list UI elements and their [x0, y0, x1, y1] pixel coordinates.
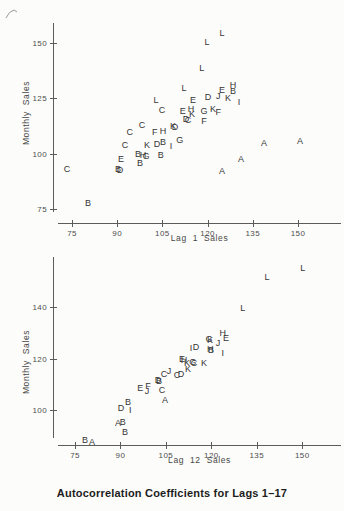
y-axis-label: Monthly Sales [21, 81, 31, 145]
x-tick-label: 75 [59, 229, 85, 238]
lag12-scatter-plot: Monthly Sales Lag 12 Sales 7590105120135… [0, 250, 344, 478]
y-axis-tick [50, 98, 57, 99]
data-point: L [199, 64, 204, 73]
x-axis-tick [208, 220, 209, 227]
data-point: B [120, 418, 126, 427]
x-tick-label: 135 [244, 451, 270, 460]
data-point: F [215, 108, 221, 117]
data-point: D [172, 123, 179, 132]
data-point: F [201, 116, 207, 125]
x-tick-label: 90 [107, 451, 133, 460]
lag1-scatter-plot: Monthly Sales Lag 1 Sales 75901051201351… [0, 0, 344, 250]
data-point: A [162, 395, 168, 404]
x-axis-tick [211, 442, 212, 449]
data-point: H [160, 127, 167, 136]
data-point: C [185, 116, 192, 125]
x-axis-tick [257, 442, 258, 449]
y-tick-label: 140 [21, 303, 47, 312]
data-point: J [216, 92, 221, 101]
data-point: B [158, 150, 164, 159]
y-tick-label: 75 [21, 205, 47, 214]
data-point: A [297, 137, 303, 146]
data-point: J [145, 386, 150, 395]
data-point: D [193, 342, 200, 351]
data-point: B [137, 158, 143, 167]
data-point: I [238, 98, 241, 107]
data-point: K [225, 94, 231, 103]
x-axis-tick [117, 220, 118, 227]
data-point: G [200, 106, 207, 115]
y-axis-line [53, 23, 54, 212]
figure-caption: Autocorrelation Coefficients for Lags 1–… [0, 487, 344, 499]
data-point: L [182, 83, 187, 92]
data-point: C [127, 127, 134, 136]
data-point: A [219, 167, 225, 176]
x-tick-label: 105 [153, 451, 179, 460]
y-tick-label: 100 [21, 406, 47, 415]
x-axis-tick [302, 442, 303, 449]
data-point: D [178, 369, 185, 378]
x-tick-label: 90 [104, 229, 130, 238]
y-tick-label: 100 [21, 150, 47, 159]
data-point: B [160, 137, 166, 146]
data-point: I [129, 406, 132, 415]
data-point: C [159, 385, 166, 394]
figure-page: Monthly Sales Lag 1 Sales 75901051201351… [0, 0, 344, 511]
x-axis-tick [253, 220, 254, 227]
data-point: L [204, 37, 209, 46]
x-tick-label: 135 [240, 229, 266, 238]
data-point: J [216, 339, 221, 348]
data-point: D [205, 92, 212, 101]
y-axis-tick [50, 307, 57, 308]
data-point: E [137, 384, 143, 393]
y-axis-tick [50, 359, 57, 360]
y-axis-tick [50, 209, 57, 210]
data-point: G [143, 152, 150, 161]
x-axis-tick [162, 220, 163, 227]
data-point: D [117, 166, 124, 175]
data-point: B [208, 346, 214, 355]
x-tick-label: 120 [198, 451, 224, 460]
data-point: D [118, 403, 125, 412]
data-point: E [223, 333, 229, 342]
data-point: G [176, 135, 183, 144]
data-point: L [220, 29, 225, 38]
data-point: K [185, 365, 191, 374]
y-tick-label: 120 [21, 355, 47, 364]
y-axis-tick [50, 154, 57, 155]
data-point: A [261, 139, 267, 148]
data-point: A [238, 154, 244, 163]
x-axis-tick [72, 220, 73, 227]
y-tick-label: 150 [21, 39, 47, 48]
y-axis-tick [50, 43, 57, 44]
data-point: J [167, 367, 172, 376]
data-point: F [152, 127, 158, 136]
data-point: A [89, 437, 95, 446]
data-point: C [159, 106, 166, 115]
data-point: B [122, 427, 128, 436]
data-point: L [300, 264, 305, 273]
x-axis-tick [75, 442, 76, 449]
x-tick-label: 120 [195, 229, 221, 238]
data-point: C [139, 121, 146, 130]
data-point: I [170, 142, 173, 151]
data-point: B [82, 436, 88, 445]
data-point: B [85, 198, 91, 207]
x-axis-tick [120, 442, 121, 449]
x-tick-label: 150 [285, 229, 311, 238]
data-point: L [240, 304, 245, 313]
data-point: K [201, 358, 207, 367]
x-axis-tick [166, 442, 167, 449]
data-point: I [222, 349, 225, 358]
data-point: L [154, 96, 159, 105]
x-axis-line [58, 445, 341, 446]
x-tick-label: 105 [149, 229, 175, 238]
data-point: K [144, 141, 150, 150]
data-point: L [265, 272, 270, 281]
x-axis-tick [298, 220, 299, 227]
y-axis-tick [50, 410, 57, 411]
data-point: E [118, 154, 124, 163]
y-tick-label: 125 [21, 94, 47, 103]
data-point: C [191, 358, 198, 367]
data-point: C [122, 141, 129, 150]
